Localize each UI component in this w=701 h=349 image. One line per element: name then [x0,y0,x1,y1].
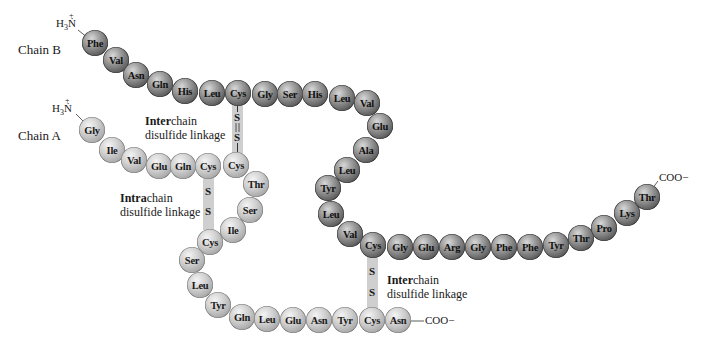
sulfur-atom: S [366,266,378,277]
residue-bead: Ile [220,217,246,243]
residue-bead: Val [354,90,380,116]
sulfur-atom: S [366,287,378,298]
residue-bead: Tyr [315,175,341,201]
residue-bead: His [172,78,198,104]
residue-bead: Cys [195,153,221,179]
linkage-desc: disulfide linkage [387,287,467,301]
residue-bead: Gly [387,234,413,260]
chain-b-c-terminus: COO− [659,171,688,183]
interchain-label-2: Interchain disulfide linkage [387,273,467,301]
residue-bead: Ser [277,81,303,107]
insulin-structure-diagram: S S S S S S Chain B Chain A H3Ṅ+ H3Ṅ+ … [0,0,701,349]
sulfur-atom: S [202,206,214,217]
linkage-type-bold: Inter [145,114,171,128]
residue-bead: Glu [413,234,439,260]
residue-bead: Leu [318,201,344,227]
residue-bead: Gly [252,81,278,107]
residue-bead: Asn [385,307,411,333]
residue-bead: Leu [254,306,280,332]
residue-bead: Gln [170,153,196,179]
residue-bead: Ser [179,247,205,273]
residue-bead: Cys [225,80,251,106]
residue-bead: Cys [360,232,386,258]
residue-bead: Glu [146,153,172,179]
residue-bead: Cys [223,152,249,178]
residue-bead: Val [121,147,147,173]
intrachain-label: Intrachain disulfide linkage [120,191,200,219]
linkage-type-rest: chain [171,114,197,128]
chain-a-label: Chain A [18,128,61,144]
residue-bead: His [302,81,328,107]
residue-bead: Gly [79,117,105,143]
chain-b-label: Chain B [18,42,61,58]
residue-bead: Gln [229,304,255,330]
linkage-type-bold: Inter [387,273,413,287]
residue-bead: Arg [439,234,465,260]
linkage-desc: disulfide linkage [145,128,225,142]
linkage-type-rest: chain [147,191,173,205]
residue-bead: Leu [329,85,355,111]
residue-bead: Thr [634,184,660,210]
residue-bead: Glu [280,307,306,333]
linkage-type-bold: Intra [120,191,147,205]
residue-bead: Pro [591,215,617,241]
linkage-type-rest: chain [413,273,439,287]
residue-bead: Leu [199,80,225,106]
residue-bead: Gln [147,71,173,97]
residue-bead: Phe [491,234,517,260]
linkage-desc: disulfide linkage [120,205,200,219]
residue-bead: Phe [517,234,543,260]
residue-bead: Cys [359,307,385,333]
chain-a-n-terminus: H3Ṅ+ [52,100,69,117]
sulfur-atom: S [202,186,214,197]
chain-b-n-terminus: H3Ṅ+ [56,15,73,32]
residue-bead: Ala [353,137,379,163]
residue-bead: Gly [465,234,491,260]
residue-bead: Asn [123,62,149,88]
residue-bead: Thr [243,171,269,197]
chain-a-c-terminus: COO− [425,314,454,326]
residue-bead: Tyr [205,292,231,318]
residue-bead: Glu [367,113,393,139]
residue-bead: Asn [306,307,332,333]
interchain-label-1: Interchain disulfide linkage [145,114,225,142]
residue-bead: Tyr [543,232,569,258]
residue-bead: Tyr [332,307,358,333]
